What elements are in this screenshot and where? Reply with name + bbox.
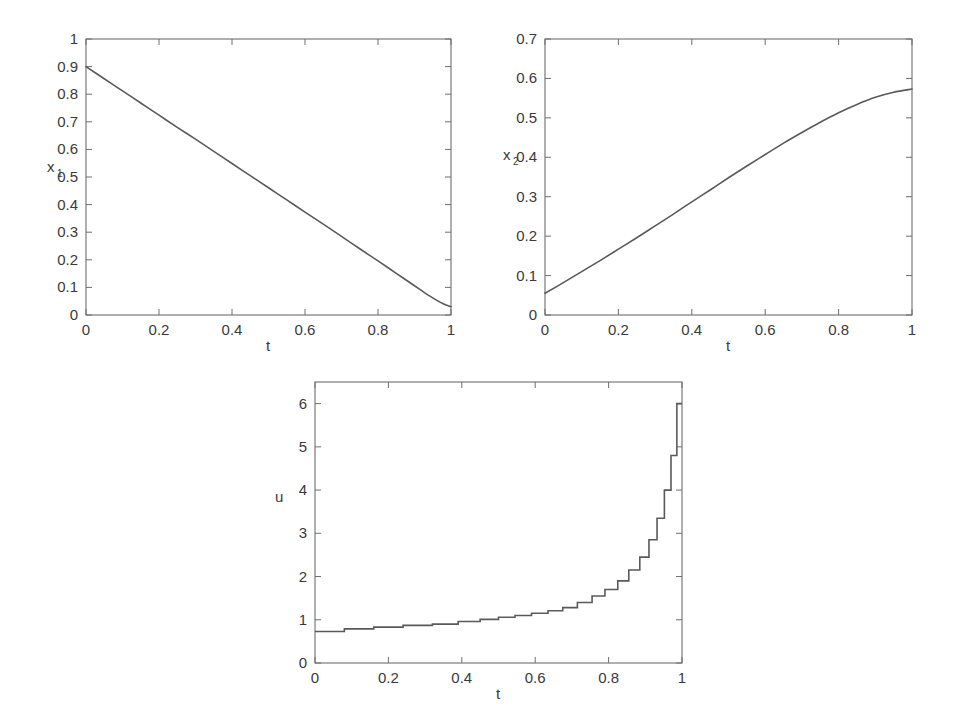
y-tick-label: 3 bbox=[299, 524, 307, 541]
y-tick-label: 1 bbox=[70, 30, 78, 47]
x-tick-label: 0 bbox=[541, 321, 549, 338]
x-tick-label: 1 bbox=[678, 669, 686, 686]
y-tick-label: 4 bbox=[299, 481, 307, 498]
y-tick-label: 0.4 bbox=[57, 196, 78, 213]
x-tick-label: 0.8 bbox=[828, 321, 849, 338]
y-tick-label: 5 bbox=[299, 438, 307, 455]
axis-ticks bbox=[315, 382, 682, 663]
state-x1-plot: 00.10.20.30.40.50.60.70.80.9100.20.40.60… bbox=[0, 0, 470, 365]
x-tick-label: 0.4 bbox=[451, 669, 472, 686]
data-curve bbox=[86, 67, 451, 307]
x-tick-label: 1 bbox=[447, 321, 455, 338]
axis-tick-labels: 00.10.20.30.40.50.60.70.80.9100.20.40.60… bbox=[57, 30, 455, 338]
y-tick-label: 0.7 bbox=[516, 30, 537, 47]
state-x2-plot: 00.10.20.30.40.50.60.700.20.40.60.81 x 2… bbox=[460, 0, 956, 365]
y-tick-label: 0.1 bbox=[57, 278, 78, 295]
y-tick-label: 0.7 bbox=[57, 113, 78, 130]
axis-tick-labels: 00.10.20.30.40.50.60.700.20.40.60.81 bbox=[516, 30, 916, 338]
y-tick-label: 0.6 bbox=[516, 69, 537, 86]
x-tick-label: 0.2 bbox=[608, 321, 629, 338]
y-tick-label: 0.1 bbox=[516, 267, 537, 284]
y-tick-label: 0.9 bbox=[57, 58, 78, 75]
y-tick-label: 6 bbox=[299, 395, 307, 412]
y-tick-label: 0.3 bbox=[57, 223, 78, 240]
y-tick-label: 0 bbox=[70, 306, 78, 323]
state-x1-svg: 00.10.20.30.40.50.60.70.80.9100.20.40.60… bbox=[0, 0, 470, 365]
figure-canvas: 00.10.20.30.40.50.60.70.80.9100.20.40.60… bbox=[0, 0, 956, 726]
y-tick-label: 0.2 bbox=[516, 227, 537, 244]
x-axis-label: t bbox=[726, 337, 731, 354]
y-tick-label: 2 bbox=[299, 568, 307, 585]
y-tick-label: 0.2 bbox=[57, 251, 78, 268]
data-curve bbox=[545, 89, 912, 293]
x-tick-label: 0.8 bbox=[368, 321, 389, 338]
x-tick-label: 0.6 bbox=[295, 321, 316, 338]
axis-tick-labels: 012345600.20.40.60.81 bbox=[299, 395, 687, 686]
x-tick-label: 0 bbox=[311, 669, 319, 686]
x-tick-label: 0.4 bbox=[681, 321, 702, 338]
y-axis-label: x bbox=[47, 158, 55, 175]
x-tick-label: 0.6 bbox=[755, 321, 776, 338]
data-curve bbox=[315, 404, 682, 632]
y-tick-label: 0.8 bbox=[57, 85, 78, 102]
y-axis-label-subscript: 2 bbox=[513, 156, 519, 167]
y-tick-label: 0.6 bbox=[57, 140, 78, 157]
state-x2-svg: 00.10.20.30.40.50.60.700.20.40.60.81 x 2… bbox=[460, 0, 956, 365]
y-axis-label: x bbox=[503, 146, 511, 163]
axes-frame bbox=[315, 382, 682, 663]
x-tick-label: 0.8 bbox=[598, 669, 619, 686]
y-tick-label: 0.5 bbox=[516, 109, 537, 126]
y-tick-label: 0.4 bbox=[516, 148, 537, 165]
y-axis-label-subscript: 1 bbox=[57, 168, 63, 179]
x-tick-label: 0 bbox=[82, 321, 90, 338]
x-tick-label: 0.6 bbox=[525, 669, 546, 686]
x-tick-label: 0.4 bbox=[222, 321, 243, 338]
x-axis-label: t bbox=[266, 337, 271, 354]
y-tick-label: 0.3 bbox=[516, 188, 537, 205]
y-tick-label: 1 bbox=[299, 611, 307, 628]
y-tick-label: 0 bbox=[529, 306, 537, 323]
x-tick-label: 0.2 bbox=[378, 669, 399, 686]
x-tick-label: 1 bbox=[908, 321, 916, 338]
x-tick-label: 0.2 bbox=[149, 321, 170, 338]
x-axis-label: t bbox=[496, 685, 501, 702]
y-axis-label: u bbox=[275, 488, 283, 505]
control-u-svg: 012345600.20.40.60.81 u t bbox=[230, 360, 730, 726]
y-tick-label: 0 bbox=[299, 654, 307, 671]
control-u-plot: 012345600.20.40.60.81 u t bbox=[230, 360, 730, 726]
